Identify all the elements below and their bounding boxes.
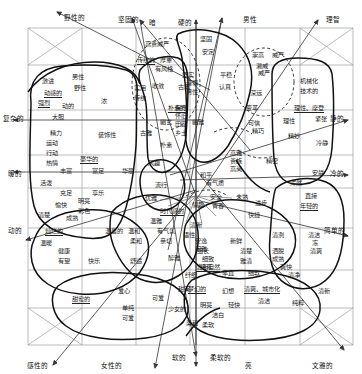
axis-label-bottom: 软的 bbox=[172, 352, 186, 362]
axis-label-top: 硬的 bbox=[178, 17, 192, 27]
image-word-label: 动感的 bbox=[44, 90, 62, 98]
image-word-label: 华丽 bbox=[122, 168, 134, 175]
image-word-label: 愉快 bbox=[55, 202, 67, 209]
image-word-label: 醇雅 bbox=[168, 255, 180, 262]
axis-label-top: 坚固的 bbox=[118, 14, 139, 24]
image-word-label: 乡土 bbox=[175, 130, 187, 137]
axis-label-right: 静的 bbox=[330, 113, 344, 123]
image-word-label: 舒适 bbox=[130, 258, 142, 265]
image-word-label: 爽快 bbox=[280, 264, 292, 271]
axis-label-right: 冷的 bbox=[330, 168, 344, 178]
image-word-label: 理性 bbox=[283, 118, 295, 125]
image-word-label: 细软 bbox=[248, 270, 260, 277]
image-word-label: 豪华的 bbox=[80, 156, 98, 164]
image-word-label: 有气氛 bbox=[157, 228, 175, 235]
axis-label-bottom: 文雅的 bbox=[312, 360, 333, 370]
image-word-label: 快捷 bbox=[248, 212, 260, 219]
image-word-label: 安全 bbox=[210, 194, 222, 201]
image-word-label: 青春 bbox=[212, 203, 224, 210]
image-word-label: 激进 bbox=[42, 78, 54, 85]
image-word-label: 可爱 bbox=[122, 315, 134, 322]
image-word-label: 幽雅 bbox=[192, 119, 204, 126]
image-word-label: 冷静 bbox=[316, 140, 328, 147]
image-word-label: 富足 bbox=[92, 168, 104, 175]
image-word-label: 明亮 bbox=[200, 302, 212, 309]
image-word-label: 实用 bbox=[134, 85, 146, 92]
image-word-label: 装饰性 bbox=[98, 132, 116, 139]
image-word-label: 语性 bbox=[183, 232, 195, 239]
axis-label-top: 男性 bbox=[243, 14, 257, 24]
image-word-label: 谨慎 bbox=[186, 80, 198, 87]
image-word-label: 精妙 bbox=[288, 133, 300, 140]
image-word-label: 清爽、城市化 bbox=[244, 286, 280, 294]
image-word-label: 直接 bbox=[305, 193, 317, 200]
image-word-label: 男性 bbox=[72, 74, 84, 81]
image-word-label: 朴素 bbox=[160, 142, 172, 149]
image-word-label: 传统的 bbox=[137, 57, 155, 65]
image-word-label: 威严 bbox=[258, 70, 270, 77]
image-word-label: 洁白 bbox=[212, 312, 224, 319]
image-word-label: 新鲜 bbox=[230, 238, 242, 245]
axis-label-top: 野性的 bbox=[64, 12, 85, 22]
image-word-label: 洒脱 bbox=[272, 248, 284, 255]
image-word-label: 甜蜜的 bbox=[72, 296, 90, 304]
axis-label-left: 动的 bbox=[8, 225, 22, 235]
diagram-canvas bbox=[0, 0, 362, 374]
image-word-label: 认真 bbox=[219, 84, 231, 91]
image-word-label: 清新自然 bbox=[196, 264, 220, 272]
image-word-label: 大胆 bbox=[52, 114, 64, 121]
image-word-label: 收敛 bbox=[152, 83, 164, 90]
image-word-label: 技术的 bbox=[300, 88, 318, 95]
image-word-label: 浑然 bbox=[290, 180, 302, 187]
image-word-label: 深远 bbox=[250, 90, 262, 97]
axis-label-top: 理智 bbox=[326, 14, 340, 24]
image-word-label: 灿烂的 bbox=[45, 228, 63, 236]
image-word-label: 清洁 bbox=[258, 298, 270, 305]
image-word-label: 有风格 bbox=[155, 66, 173, 73]
image-word-label: 单纯 bbox=[122, 305, 134, 312]
axis-label-left: 复杂的 bbox=[3, 113, 24, 123]
image-word-label: 强烈 bbox=[38, 100, 50, 108]
image-word-label: 细致 bbox=[202, 256, 214, 263]
image-word-label: 高雅 bbox=[230, 150, 242, 157]
image-word-label: 清新 bbox=[318, 288, 330, 295]
image-word-label: 爱心 bbox=[118, 288, 130, 295]
image-word-label: 精密 bbox=[266, 158, 278, 165]
image-word-label: 享乐 bbox=[92, 190, 104, 197]
image-word-label: 精力 bbox=[50, 130, 62, 137]
axis-label-bottom: 柔软的 bbox=[210, 352, 231, 362]
image-word-label: 温暖 bbox=[40, 240, 52, 247]
image-word-label: 清楚 bbox=[38, 212, 50, 219]
image-word-label: 清洁 bbox=[308, 232, 320, 239]
image-word-label: 古雅 bbox=[140, 130, 152, 137]
image-word-label: 高贵威严 bbox=[145, 41, 169, 48]
image-word-label: 理性、摩登 bbox=[294, 105, 324, 113]
image-word-label: 热情 bbox=[46, 160, 58, 167]
image-word-label: 有望 bbox=[58, 258, 70, 265]
image-word-label: 和平 bbox=[200, 172, 212, 179]
image-word-label: 清洌 bbox=[272, 232, 284, 239]
image-word-label: 纤细 bbox=[185, 272, 197, 279]
image-word-label: 变革 bbox=[246, 105, 258, 112]
image-word-label: 成熟 bbox=[272, 256, 284, 263]
image-word-label: 温雅 bbox=[150, 218, 162, 225]
image-word-label: 情趣 bbox=[192, 202, 204, 209]
image-word-label: 雅清 bbox=[240, 258, 252, 265]
image-word-label: 率直 bbox=[222, 270, 234, 277]
image-word-label: 浓 bbox=[101, 98, 107, 105]
axis-label-top: 暗 bbox=[149, 17, 156, 27]
image-word-label: 丰富 bbox=[60, 168, 72, 175]
image-word-label: 机械化 bbox=[300, 78, 318, 85]
image-word-label: 细长 bbox=[197, 248, 209, 255]
image-word-label: 少女的 bbox=[168, 306, 186, 313]
image-word-label: 清楚 bbox=[240, 248, 252, 255]
axis-label-bottom: 女性的 bbox=[101, 360, 122, 370]
image-word-label: 野性 bbox=[74, 85, 86, 92]
image-word-label: 安静 bbox=[312, 170, 324, 177]
image-word-label: 年轻的 bbox=[300, 203, 318, 211]
image-word-label: 健康 bbox=[58, 248, 70, 255]
image-word-label: 精巧 bbox=[252, 128, 264, 135]
image-word-label: 威严 bbox=[272, 52, 284, 59]
image-word-label: 运动 bbox=[46, 140, 58, 147]
image-word-label: 行动 bbox=[46, 150, 58, 157]
